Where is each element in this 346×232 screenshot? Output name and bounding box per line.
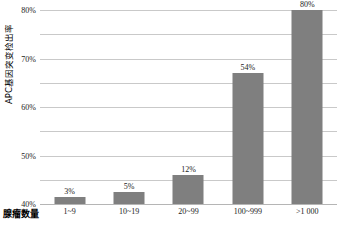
x-tick-label: 10~19: [119, 207, 139, 216]
caption-clip: [0, 224, 346, 232]
bar[interactable]: [114, 192, 145, 204]
x-tick-label: 20~99: [178, 207, 198, 216]
y-tick-label: 50%: [21, 151, 36, 160]
bar-slot: 3%: [40, 10, 99, 204]
y-tick-label: 70%: [21, 54, 36, 63]
y-tick-label: 60%: [21, 103, 36, 112]
x-tick-labels: 1~910~1920~99100~999>1 000: [40, 207, 337, 221]
bar-slot: 80%: [278, 10, 337, 204]
bar-slot: 54%: [218, 10, 277, 204]
x-tick-label: 1~9: [64, 207, 76, 216]
bars-group: 3%5%12%54%80%: [40, 10, 337, 204]
y-axis-title: APC基因突变检出率: [2, 9, 14, 119]
bar-value-label: 5%: [124, 182, 135, 191]
bar-chart: APC基因突变检出率 0%10%20%30%40%50%60%70%80% 3%…: [0, 0, 346, 232]
plot-area: 0%10%20%30%40%50%60%70%80% 3%5%12%54%80%: [40, 10, 337, 204]
bar[interactable]: [232, 73, 263, 204]
x-axis-title: 腺瘤数量: [3, 207, 39, 220]
bar[interactable]: [54, 197, 85, 204]
bar-slot: 12%: [159, 10, 218, 204]
bar-value-label: 3%: [64, 187, 75, 196]
y-tick-label: 80%: [21, 6, 36, 15]
bar-value-label: 54%: [241, 63, 256, 72]
bar[interactable]: [292, 10, 323, 204]
bar[interactable]: [173, 175, 204, 204]
x-tick-label: >1 000: [296, 207, 319, 216]
bar-slot: 5%: [99, 10, 158, 204]
x-tick-label: 100~999: [234, 207, 262, 216]
bar-value-label: 12%: [181, 165, 196, 174]
gridline: 0%: [40, 204, 337, 205]
bar-value-label: 80%: [300, 0, 315, 9]
